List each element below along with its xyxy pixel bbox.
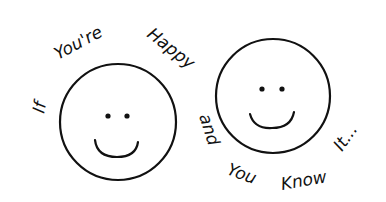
caption: If You're Happy and You Know It... xyxy=(28,22,361,194)
left-smiley-face xyxy=(60,64,176,180)
left-face-left-eye xyxy=(105,113,110,118)
caption-word-know: Know xyxy=(279,166,328,194)
caption-word-it: It... xyxy=(329,120,361,154)
caption-word-if: If xyxy=(28,97,50,115)
right-face-right-eye xyxy=(279,86,284,91)
caption-word-you: You xyxy=(225,159,260,188)
smiley-illustration: If You're Happy and You Know It... xyxy=(0,0,386,202)
left-face-smile xyxy=(95,140,138,157)
right-face-outline xyxy=(216,39,330,153)
left-face-outline xyxy=(60,64,176,180)
right-face-smile xyxy=(250,112,294,128)
caption-word-youre: You're xyxy=(50,22,105,64)
right-face-left-eye xyxy=(259,86,264,91)
caption-word-happy: Happy xyxy=(144,23,200,73)
left-face-right-eye xyxy=(124,113,129,118)
right-smiley-face xyxy=(216,39,330,153)
